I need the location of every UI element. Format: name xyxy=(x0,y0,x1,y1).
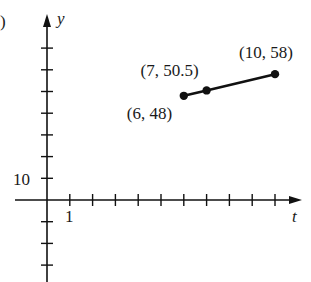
y-axis-label: y xyxy=(55,9,65,28)
x-axis-arrow-icon xyxy=(289,196,302,204)
x-axis-label: t xyxy=(292,207,298,226)
point-label: (6, 48) xyxy=(127,104,172,123)
point-labels: (6, 48)(7, 50.5)(10, 58) xyxy=(127,43,293,123)
data-point xyxy=(271,70,279,78)
panel-marker: ) xyxy=(0,12,6,31)
data-point xyxy=(202,86,210,94)
point-label: (10, 58) xyxy=(239,43,293,62)
chart: ) y t 10 1 (6, 48)(7, 50.5)(10, 58) xyxy=(0,0,311,282)
y-axis-arrow-icon xyxy=(43,14,51,27)
data-point xyxy=(180,92,188,100)
x-tick-label: 1 xyxy=(65,207,74,226)
y-tick-label: 10 xyxy=(13,170,30,189)
point-label: (7, 50.5) xyxy=(141,61,199,80)
